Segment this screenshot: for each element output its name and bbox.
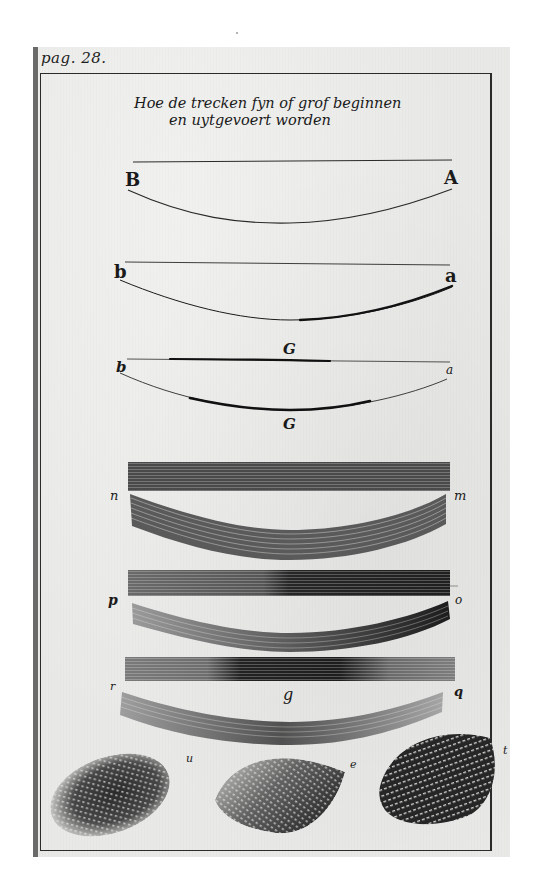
fig5-curved-band [132, 601, 450, 652]
label-G-bottom: G [283, 415, 296, 433]
fig5-band-hatching [128, 570, 450, 596]
figure-6: r g q [110, 657, 463, 745]
fig4-curved-band [130, 494, 446, 560]
patch-e [215, 758, 345, 833]
fig3-curve-swell [190, 398, 370, 410]
fig3-line-swell [170, 359, 330, 361]
label-m: m [454, 488, 466, 503]
label-o: o [455, 593, 462, 607]
label-r: r [110, 680, 116, 693]
fig4-band-hatching [128, 462, 450, 491]
label-b: b [114, 261, 127, 282]
label-g: g [283, 685, 293, 704]
label-q: q [454, 684, 463, 699]
label-B: B [125, 169, 140, 190]
fig1-curve [128, 189, 452, 223]
fig6-band-hatching [125, 657, 455, 681]
label-n: n [110, 488, 118, 503]
label-A: A [443, 167, 459, 188]
label-t: t [503, 744, 508, 757]
figure-1: B A [125, 160, 459, 223]
label-G-top: G [283, 340, 296, 358]
fig1-straight-line [133, 160, 452, 162]
fig2-straight-line [125, 262, 450, 265]
label-u: u [186, 752, 193, 765]
figure-2: b a [114, 261, 457, 320]
fig3-curve-thin [120, 373, 447, 410]
fig2-curve-thin [120, 280, 452, 320]
figure-7: u e t [39, 734, 508, 852]
figure-3: G b a G [116, 340, 453, 433]
figure-4: n m [110, 462, 466, 560]
label-e: e [350, 758, 357, 771]
label-a: a [445, 265, 457, 286]
patch-u [39, 738, 182, 852]
patch-t [379, 734, 495, 824]
figure-5: p o [108, 570, 462, 652]
label-a-italic: a [446, 363, 453, 377]
engraving-figures: B A b a G b a G n m [0, 0, 556, 869]
label-b-italic: b [116, 358, 127, 376]
fig2-curve-swell [300, 286, 452, 320]
label-p: p [108, 592, 118, 608]
